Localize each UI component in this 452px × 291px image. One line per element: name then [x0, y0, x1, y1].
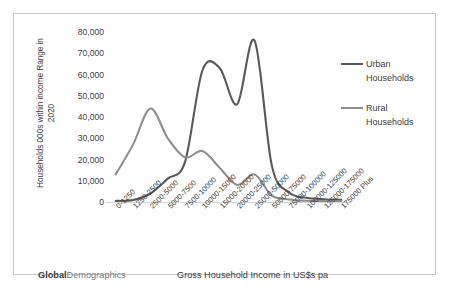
y-axis-title-line2: 2020	[46, 13, 57, 213]
legend-label: UrbanHouseholds	[366, 58, 446, 85]
y-axis-tick-label: 80,000	[58, 27, 104, 37]
legend-entry[interactable]: UrbanHouseholds	[341, 58, 445, 86]
y-axis-tick-label: 0	[58, 197, 104, 207]
y-axis-tick-label: 50,000	[58, 91, 104, 101]
y-axis-title: Households 000s within income Range in 2…	[35, 13, 57, 213]
y-axis-tick-label: 40,000	[58, 112, 104, 122]
y-axis-title-line1: Households 000s within income Range in	[35, 38, 45, 188]
x-axis-title: Gross Household Income in US$s pa	[177, 270, 328, 280]
y-axis-tick-labels: 010,00020,00030,00040,00050,00060,00070,…	[58, 28, 104, 210]
legend-color-swatch	[341, 63, 363, 65]
legend-color-swatch	[341, 107, 363, 109]
y-axis-tick-label: 10,000	[58, 176, 104, 186]
legend-entry[interactable]: RuralHouseholds	[341, 102, 445, 130]
chart-figure-frame: Households 000s within income Range in 2…	[13, 13, 436, 275]
y-axis-tick-label: 20,000	[58, 155, 104, 165]
y-axis-tick-label: 70,000	[58, 48, 104, 58]
y-axis-tick-label: 60,000	[58, 70, 104, 80]
chart-screenshot: Households 000s within income Range in 2…	[0, 0, 452, 291]
brand-rest: Demographics	[67, 270, 126, 280]
y-axis-tick-label: 30,000	[58, 133, 104, 143]
legend-label: RuralHouseholds	[366, 102, 446, 129]
x-axis-tick-labels: 0-12501250-25002500-50005000-75007500-10…	[107, 204, 352, 264]
brand-watermark: GlobalDemographics	[38, 270, 126, 280]
brand-bold: Global	[38, 270, 67, 280]
chart-legend: UrbanHouseholdsRuralHouseholds	[341, 58, 445, 146]
